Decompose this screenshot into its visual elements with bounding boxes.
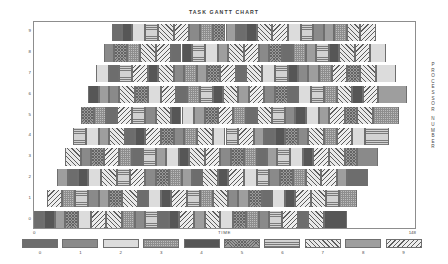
gantt-task-block-9 xyxy=(161,86,177,103)
gantt-task-block-9 xyxy=(329,107,345,124)
gantt-task-block-2 xyxy=(96,65,109,82)
gantt-task-block-4 xyxy=(275,128,285,145)
gantt-task-block-8 xyxy=(238,86,248,103)
gantt-task-block-1 xyxy=(357,148,378,165)
gantt-task-block-6 xyxy=(119,65,132,82)
gantt-task-block-2 xyxy=(182,107,195,124)
gantt-task-block-7 xyxy=(202,169,218,186)
gantt-task-block-0 xyxy=(257,148,267,165)
legend-label-6: 6 xyxy=(264,250,300,255)
gantt-task-block-7 xyxy=(337,86,353,103)
gantt-task-block-9 xyxy=(272,24,288,41)
gantt-task-block-9 xyxy=(360,24,376,41)
gantt-task-block-6 xyxy=(272,107,285,124)
gantt-task-block-1 xyxy=(174,128,184,145)
gantt-task-block-4 xyxy=(122,24,132,41)
gantt-task-block-6 xyxy=(145,24,158,41)
legend-swatch-2 xyxy=(103,239,139,248)
gantt-task-block-0 xyxy=(171,44,181,61)
gantt-task-block-0 xyxy=(138,190,148,207)
gantt-task-block-7 xyxy=(223,86,239,103)
gantt-task-block-9 xyxy=(244,44,260,61)
legend-item-1[interactable]: 1 xyxy=(62,239,98,255)
gantt-task-block-8 xyxy=(337,169,347,186)
gantt-task-block-4 xyxy=(148,65,158,82)
gantt-task-block-9 xyxy=(174,24,190,41)
legend-item-5[interactable]: 5 xyxy=(224,239,260,255)
gantt-task-block-3 xyxy=(119,148,132,165)
gantt-task-block-4 xyxy=(329,44,339,61)
gantt-task-block-3 xyxy=(373,107,399,124)
gantt-task-block-0 xyxy=(282,44,292,61)
gantt-task-block-4 xyxy=(295,107,305,124)
gantt-task-block-6 xyxy=(301,24,314,41)
y-tick-0: 0 xyxy=(18,216,31,221)
legend-swatch-3 xyxy=(143,239,179,248)
gantt-task-block-3 xyxy=(200,24,213,41)
gantt-task-block-5 xyxy=(109,190,122,207)
gantt-task-block-4 xyxy=(171,107,181,124)
gantt-task-block-7 xyxy=(101,169,117,186)
legend-label-2: 2 xyxy=(103,250,139,255)
gantt-task-block-3 xyxy=(339,190,357,207)
gantt-task-block-3 xyxy=(184,128,197,145)
gantt-task-block-9 xyxy=(145,128,161,145)
y-tick-8: 8 xyxy=(18,49,31,54)
gantt-task-block-0 xyxy=(106,107,116,124)
plot-area xyxy=(33,21,416,229)
gantt-task-block-1 xyxy=(285,107,295,124)
legend-item-3[interactable]: 3 xyxy=(143,239,179,255)
gantt-task-block-2 xyxy=(244,169,257,186)
gantt-task-block-5 xyxy=(65,211,78,228)
gantt-task-block-3 xyxy=(127,44,140,61)
gantt-task-block-3 xyxy=(62,190,75,207)
gantt-task-block-2 xyxy=(370,44,386,61)
gantt-task-block-2 xyxy=(205,44,218,61)
gantt-task-block-9 xyxy=(132,65,148,82)
gantt-task-block-4 xyxy=(88,86,98,103)
gantt-task-block-1 xyxy=(145,107,155,124)
gantt-task-block-0 xyxy=(176,86,186,103)
legend-item-7[interactable]: 7 xyxy=(305,239,341,255)
gantt-task-block-6 xyxy=(132,107,145,124)
gantt-task-block-8 xyxy=(378,86,406,103)
gantt-task-block-1 xyxy=(298,128,308,145)
gantt-task-block-3 xyxy=(233,107,246,124)
legend-item-2[interactable]: 2 xyxy=(103,239,139,255)
gantt-task-block-3 xyxy=(319,65,332,82)
gantt-task-block-4 xyxy=(246,24,256,41)
gantt-task-block-8 xyxy=(324,24,334,41)
gantt-bars-layer xyxy=(34,22,415,228)
gantt-task-block-3 xyxy=(293,44,306,61)
gantt-task-block-5 xyxy=(207,65,220,82)
gantt-task-block-9 xyxy=(205,148,221,165)
legend-item-0[interactable]: 0 xyxy=(22,239,58,255)
gantt-task-block-9 xyxy=(47,190,63,207)
gantt-row-processor-3 xyxy=(34,148,416,165)
gantt-task-block-8 xyxy=(194,107,204,124)
gantt-task-block-0 xyxy=(132,148,142,165)
legend-item-4[interactable]: 4 xyxy=(184,239,220,255)
gantt-task-block-6 xyxy=(73,128,86,145)
gantt-row-processor-2 xyxy=(34,169,416,186)
gantt-task-block-6 xyxy=(192,44,205,61)
gantt-task-block-6 xyxy=(200,86,213,103)
gantt-task-block-5 xyxy=(135,86,148,103)
gantt-task-block-3 xyxy=(94,107,107,124)
legend-item-9[interactable]: 9 xyxy=(386,239,422,255)
gantt-task-block-1 xyxy=(259,44,269,61)
legend-item-8[interactable]: 8 xyxy=(345,239,381,255)
chart-title: TASK GANTT CHART xyxy=(0,9,448,15)
y-axis: 9876543210 xyxy=(18,21,31,229)
gantt-task-block-7 xyxy=(306,169,322,186)
gantt-task-block-3 xyxy=(187,86,200,103)
gantt-task-block-0 xyxy=(112,24,122,41)
gantt-task-block-4 xyxy=(218,169,228,186)
gantt-task-block-7 xyxy=(109,128,125,145)
legend-item-6[interactable]: 6 xyxy=(264,239,300,255)
gantt-task-block-2 xyxy=(148,86,161,103)
gantt-task-block-4 xyxy=(169,211,179,228)
gantt-task-block-8 xyxy=(197,65,207,82)
gantt-task-block-3 xyxy=(334,24,347,41)
gantt-task-block-1 xyxy=(264,86,274,103)
